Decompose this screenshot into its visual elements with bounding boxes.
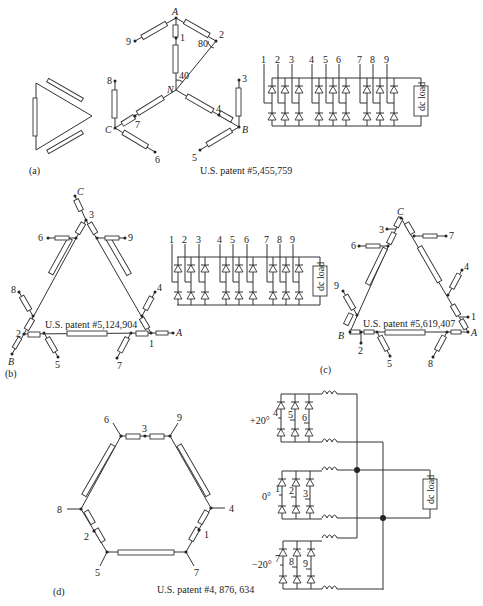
panel-label-d: (d) (53, 586, 65, 598)
tap-label-9: 9 (177, 412, 182, 423)
angle-label-40: 40 (179, 70, 189, 81)
tap-label-1: 1 (149, 338, 154, 349)
node-label-B: B (338, 330, 344, 341)
rect-input-1: 1 (261, 54, 266, 65)
diode-columns (264, 64, 398, 126)
tap-label-2: 2 (358, 345, 363, 356)
node-label-C: C (77, 186, 84, 197)
rect-input-6: 6 (244, 234, 249, 245)
tap-label-1: 1 (180, 32, 185, 43)
tap-label-5: 5 (55, 359, 60, 370)
node-label-A: A (171, 6, 179, 17)
bridge-input-7: 7 (275, 553, 280, 564)
tap-label-3: 3 (89, 209, 94, 220)
rect-input-4: 4 (217, 234, 222, 245)
bridge-input-6: 6 (302, 412, 307, 423)
delta-winding-diagram-c: C A B 1 2 3 4 5 6 7 8 9 (334, 206, 478, 369)
rect-input-4: 4 (309, 54, 314, 65)
tap-label-2: 2 (16, 328, 21, 339)
tap-label-1: 1 (471, 311, 476, 322)
patent-caption-d: U.S. patent #4, 876, 634 (157, 584, 254, 595)
tap-label-5: 5 (192, 152, 197, 163)
inductor-icon (322, 515, 337, 518)
delta-winding-symbol (33, 78, 92, 153)
inductor-icon (322, 439, 337, 442)
wye-winding-diagram: A N C B 1 2 3 4 5 6 7 8 9 80 40 (105, 6, 248, 165)
rect-input-3: 3 (289, 54, 294, 65)
bridge-minus20: −20° 7 8 9 (252, 535, 383, 589)
tap-label-9: 9 (126, 36, 131, 47)
tap-label-8: 8 (11, 284, 16, 295)
panel-label-a: (a) (29, 165, 40, 177)
bridge-input-1: 1 (275, 483, 280, 494)
patent-caption-c: U.S. patent #5,619,407 (363, 318, 455, 329)
tap-label-5: 5 (95, 567, 100, 578)
panel-d: 1 2 3 4 5 6 7 8 9 (d) U.S. patent #4, 87… (53, 391, 437, 598)
phase-label-plus20: +20° (250, 415, 270, 426)
rect-input-5: 5 (230, 234, 235, 245)
tap-label-2: 2 (84, 531, 89, 542)
patent-caption-b: U.S. patent #5,124,904 (45, 319, 137, 330)
tap-label-1: 1 (204, 529, 209, 540)
bridge-input-5: 5 (288, 409, 293, 420)
bridge-input-4: 4 (273, 407, 278, 418)
inductor-icon (322, 391, 337, 394)
inductor-icon (322, 467, 337, 470)
bridge-input-2: 2 (289, 485, 294, 496)
node-label-B: B (8, 356, 14, 367)
tap-label-8: 8 (428, 358, 433, 369)
tap-label-8: 8 (107, 75, 112, 86)
panel-label-b: (b) (5, 368, 17, 380)
node-label-A: A (175, 327, 183, 338)
rect-input-5: 5 (323, 54, 328, 65)
rect-input-7: 7 (357, 54, 362, 65)
tap-label-9: 9 (128, 232, 133, 243)
angle-label-80: 80 (198, 38, 208, 49)
rectifier-bridge-b: dc load 1 2 3 4 5 6 7 8 9 (169, 234, 327, 305)
rect-input-8: 8 (370, 54, 375, 65)
node-label-A: A (470, 327, 478, 338)
tap-label-7: 7 (117, 360, 122, 371)
rectifier-bridge-a: dc load (261, 54, 428, 126)
dc-load-label: dc load (315, 262, 326, 291)
tap-label-4: 4 (464, 261, 469, 272)
rect-input-8: 8 (277, 234, 282, 245)
tap-label-6: 6 (351, 240, 356, 251)
tap-label-4: 4 (157, 282, 162, 293)
inductor-icon (322, 586, 337, 589)
dc-load-label: dc load (425, 475, 436, 504)
panel-c: C A B 1 2 3 4 5 6 7 8 9 U.S. patent #5,6… (320, 206, 478, 376)
rect-input-3: 3 (196, 234, 201, 245)
bridge-input-3: 3 (303, 488, 308, 499)
bridge-plus20: +20° 4 5 6 (250, 391, 383, 442)
node-label-N: N (166, 84, 175, 95)
rect-input-2: 2 (275, 54, 280, 65)
panel-b: C A B 1 2 3 4 5 6 7 8 9 U.S. patent #5,1… (5, 186, 327, 380)
tap-label-7: 7 (449, 230, 454, 241)
tap-label-6: 6 (104, 414, 109, 425)
tap-label-6: 6 (38, 232, 43, 243)
tap-label-3: 3 (142, 423, 147, 434)
tap-label-8: 8 (57, 504, 62, 515)
tap-label-5: 5 (387, 358, 392, 369)
transformer-diagrams-figure: A N C B 1 2 3 4 5 6 7 8 9 80 40 dc load (0, 0, 483, 606)
bridge-input-8: 8 (289, 556, 294, 567)
panel-a: A N C B 1 2 3 4 5 6 7 8 9 80 40 dc load (29, 6, 428, 177)
inductor-icon (322, 535, 337, 538)
bridge-zero: 0° 1 2 3 (262, 467, 383, 519)
patent-caption-a: U.S. patent #5,455,759 (200, 165, 292, 176)
tap-label-4: 4 (229, 503, 234, 514)
tap-label-7: 7 (194, 567, 199, 578)
rect-input-6: 6 (336, 54, 341, 65)
tap-label-4: 4 (216, 103, 221, 114)
node-label-C: C (105, 124, 112, 135)
bridge-input-9: 9 (303, 558, 308, 569)
tap-label-3: 3 (379, 224, 384, 235)
rect-input-1: 1 (169, 234, 174, 245)
rect-input-9: 9 (290, 234, 295, 245)
rect-input-2: 2 (182, 234, 187, 245)
phase-label-zero: 0° (262, 491, 271, 502)
tap-label-3: 3 (242, 73, 247, 84)
delta-winding-diagram-b: C A B 1 2 3 4 5 6 7 8 9 (8, 186, 183, 371)
tap-label-9: 9 (334, 280, 339, 291)
